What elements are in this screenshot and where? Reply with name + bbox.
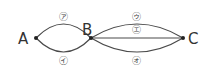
edge-label-o: ㋔ xyxy=(132,56,141,66)
point-b-label: B xyxy=(82,21,92,39)
edge-label-u: ㋒ xyxy=(132,12,141,22)
point-a-dot xyxy=(34,36,38,40)
edge-o-lower xyxy=(91,38,183,52)
point-a-label: A xyxy=(18,30,29,48)
point-c-dot xyxy=(181,36,185,40)
edge-label-i: ㋑ xyxy=(59,56,68,66)
point-c-label: C xyxy=(188,30,198,48)
edge-label-e: ㋓ xyxy=(132,25,141,35)
edge-label-a: ㋐ xyxy=(59,12,68,22)
edge-i-lower xyxy=(36,38,91,52)
route-diagram: A B C ㋐ ㋑ ㋒ ㋓ ㋔ xyxy=(0,0,216,70)
